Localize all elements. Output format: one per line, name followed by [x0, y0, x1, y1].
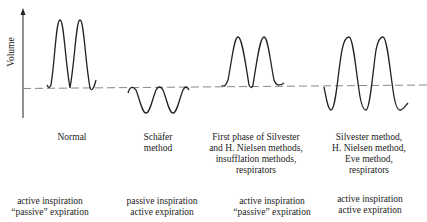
- volume-diagram: [0, 0, 427, 222]
- schafer-label: Schäfer method: [122, 132, 194, 154]
- first-phase-mode: active inspiration “passive” expiration: [222, 196, 322, 218]
- normal-label: Normal: [40, 132, 104, 143]
- y-axis-arrow-icon: [21, 8, 26, 15]
- silvester-wave: [324, 37, 408, 110]
- silvester-mode: active inspiration active expiration: [320, 194, 420, 216]
- y-axis-label: Volume: [2, 22, 20, 82]
- normal-wave: [47, 20, 96, 90]
- normal-mode: active inspiration “passive” expiration: [0, 196, 100, 218]
- first-phase-label: First phase of Silvester and H. Nielsen …: [200, 132, 312, 176]
- silvester-label: Silvester method, H. Nielsen method, Eve…: [322, 132, 416, 176]
- first-phase-wave: [222, 37, 284, 88]
- schafer-wave: [128, 87, 189, 113]
- schafer-mode: passive inspiration active expiration: [112, 196, 212, 218]
